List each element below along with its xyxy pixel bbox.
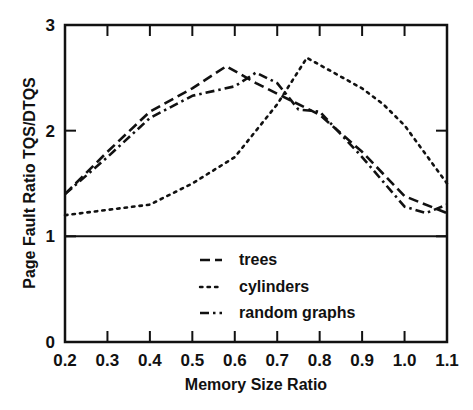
legend-label: trees (239, 251, 277, 268)
y-axis-title: Page Fault Ratio TQS/DTQS (21, 77, 38, 289)
x-tick-label: 0.9 (350, 351, 374, 370)
x-tick-label: 0.6 (223, 351, 247, 370)
x-tick-label: 0.4 (138, 351, 162, 370)
legend: treescylindersrandom graphs (200, 251, 356, 321)
legend-label: cylinders (239, 278, 309, 295)
line-chart: 0.20.30.40.50.60.70.80.91.01.10123 trees… (0, 0, 473, 410)
x-tick-label: 0.7 (265, 351, 289, 370)
x-tick-label: 1.1 (435, 351, 459, 370)
y-tick-label: 1 (46, 227, 55, 246)
y-tick-label: 0 (46, 333, 55, 352)
x-tick-label: 0.5 (181, 351, 205, 370)
x-tick-label: 0.3 (96, 351, 120, 370)
x-tick-label: 0.8 (308, 351, 332, 370)
y-tick-label: 2 (46, 122, 55, 141)
x-tick-label: 0.2 (53, 351, 77, 370)
legend-label: random graphs (239, 304, 356, 321)
series-random-graphs (65, 73, 447, 214)
x-axis-title: Memory Size Ratio (185, 376, 327, 393)
x-tick-label: 1.0 (393, 351, 417, 370)
y-tick-label: 3 (46, 16, 55, 35)
series-layer (65, 58, 447, 215)
